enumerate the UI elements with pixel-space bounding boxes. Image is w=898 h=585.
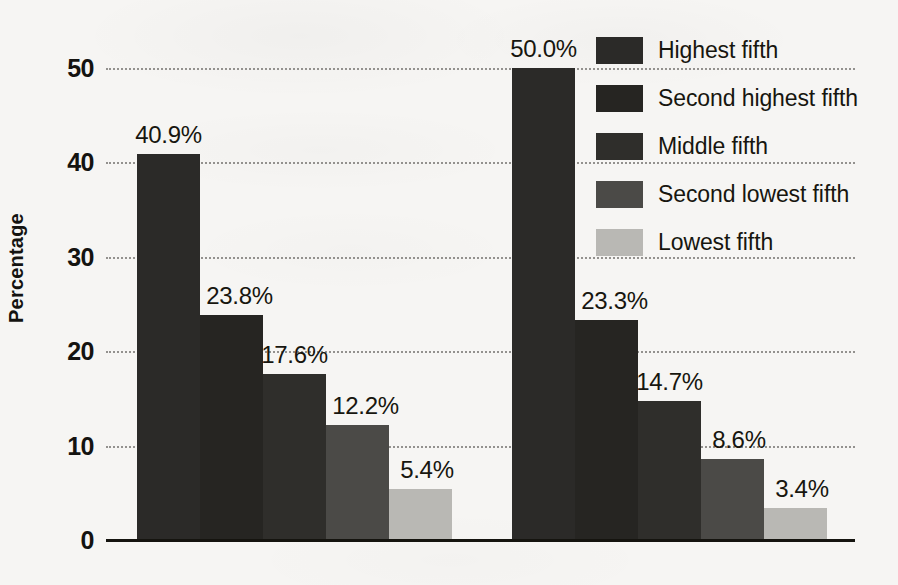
bar: 23.8% (200, 315, 263, 540)
bar: 8.6% (701, 459, 764, 540)
bar: 50.0% (512, 68, 575, 540)
bar-fill (137, 154, 200, 540)
bar-value-label: 40.9% (135, 121, 202, 149)
y-axis-tick-label: 40 (67, 148, 94, 177)
y-axis-tick-label: 0 (81, 526, 94, 555)
bar-fill (575, 320, 638, 540)
bar-value-label: 3.4% (775, 475, 829, 503)
x-axis-line (106, 539, 855, 542)
legend-item[interactable]: Second lowest fifth (596, 170, 896, 218)
legend-label: Middle fifth (658, 133, 768, 160)
legend-label: Lowest fifth (658, 229, 773, 256)
bar: 3.4% (764, 508, 827, 540)
bar-fill (638, 401, 701, 540)
legend-swatch (596, 85, 643, 112)
bar-fill (701, 459, 764, 540)
bar-value-label: 50.0% (510, 35, 577, 63)
bar: 12.2% (326, 425, 389, 540)
bar-fill (764, 508, 827, 540)
legend-item[interactable]: Middle fifth (596, 122, 896, 170)
bar: 17.6% (263, 374, 326, 540)
legend-item[interactable]: Highest fifth (596, 26, 896, 74)
bar-chart: Percentage 5040302010040.9%23.8%17.6%12.… (0, 0, 898, 585)
legend-label: Second highest fifth (658, 85, 858, 112)
y-axis-title: Percentage (5, 213, 28, 323)
bar-value-label: 5.4% (400, 456, 454, 484)
legend-item[interactable]: Second highest fifth (596, 74, 896, 122)
y-axis-tick-label: 20 (67, 337, 94, 366)
legend-swatch (596, 181, 643, 208)
bar-fill (263, 374, 326, 540)
bar-value-label: 23.8% (206, 282, 273, 310)
bar-fill (389, 489, 452, 540)
legend-swatch (596, 37, 643, 64)
y-axis-tick-label: 50 (67, 54, 94, 83)
y-axis-tick-label: 10 (67, 431, 94, 460)
legend: Highest fifthSecond highest fifthMiddle … (596, 26, 896, 266)
bar: 23.3% (575, 320, 638, 540)
bar-value-label: 12.2% (332, 392, 399, 420)
legend-label: Highest fifth (658, 37, 778, 64)
bar: 14.7% (638, 401, 701, 540)
bar-value-label: 8.6% (712, 426, 766, 454)
bar-value-label: 17.6% (261, 341, 328, 369)
bar-value-label: 14.7% (636, 368, 703, 396)
bar-fill (200, 315, 263, 540)
bar-fill (326, 425, 389, 540)
legend-swatch (596, 133, 643, 160)
bar: 5.4% (389, 489, 452, 540)
y-axis-tick-label: 30 (67, 242, 94, 271)
bar-value-label: 23.3% (581, 287, 648, 315)
bar: 40.9% (137, 154, 200, 540)
legend-label: Second lowest fifth (658, 181, 849, 208)
legend-item[interactable]: Lowest fifth (596, 218, 896, 266)
bar-fill (512, 68, 575, 540)
legend-swatch (596, 229, 643, 256)
